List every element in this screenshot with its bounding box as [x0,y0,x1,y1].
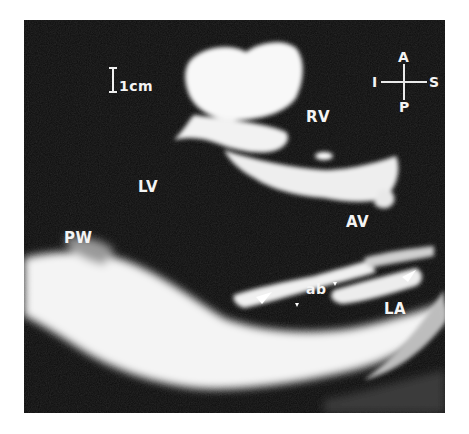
label-rv: RV [306,110,330,125]
label-pw: PW [64,231,93,246]
scale-bar-label: 1cm [119,79,153,93]
orientation-left-label: I [372,75,378,89]
echocardiogram-frame: 1cm A P I S RV LV AV PW ab LA [24,20,445,413]
orientation-compass: A P I S [369,50,445,120]
label-av: AV [346,215,369,230]
scale-bar [109,67,117,93]
label-ab: ab [306,282,326,296]
orientation-right-label: S [429,75,440,89]
orientation-top-label: A [398,50,409,64]
orientation-bottom-label: P [399,100,410,114]
label-la: LA [384,302,406,317]
label-lv: LV [138,180,158,195]
